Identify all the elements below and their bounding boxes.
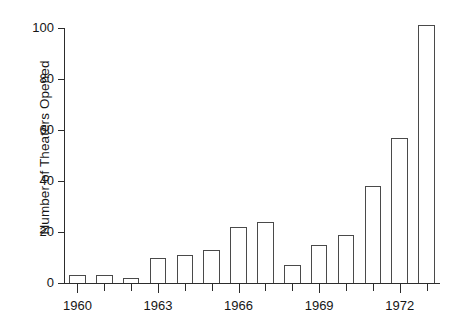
x-axis-tick-label: 1960 [63, 298, 92, 313]
bar [230, 227, 247, 283]
y-axis-tick-label: 0 [47, 275, 54, 290]
bar [338, 235, 355, 283]
bar [177, 255, 194, 283]
bar [311, 245, 328, 283]
x-axis-tick [158, 284, 159, 293]
x-axis-tick [319, 284, 320, 293]
x-axis-tick [185, 284, 186, 291]
plot-area: 020406080100 19601963196619691972 [64, 28, 440, 283]
y-axis-line [64, 28, 65, 283]
y-axis-tick: 100 [58, 28, 64, 29]
bar [203, 250, 220, 283]
x-axis-tick [346, 284, 347, 291]
x-axis-tick [400, 284, 401, 293]
y-axis-tick-label: 80 [40, 71, 54, 86]
x-axis-tick-label: 1972 [385, 298, 414, 313]
y-axis-tick-label: 100 [32, 20, 54, 35]
x-axis-tick-label: 1969 [305, 298, 334, 313]
bar [69, 275, 86, 283]
y-axis-tick: 20 [58, 232, 64, 233]
x-axis-tick [292, 284, 293, 291]
x-axis-tick [104, 284, 105, 291]
x-axis-tick [265, 284, 266, 291]
x-axis-tick-label: 1963 [144, 298, 173, 313]
bar [284, 265, 301, 283]
x-axis-tick-label: 1966 [224, 298, 253, 313]
x-axis-tick [239, 284, 240, 293]
x-axis-tick [427, 284, 428, 291]
y-axis-tick-label: 60 [40, 122, 54, 137]
bar [418, 25, 435, 283]
bar-chart-figure: Number of Theaters Opened 020406080100 1… [0, 0, 449, 335]
bar [257, 222, 274, 283]
y-axis-tick: 0 [58, 283, 64, 284]
bar [123, 278, 140, 283]
bar [391, 138, 408, 283]
bar [96, 275, 113, 283]
y-axis-tick-label: 20 [40, 224, 54, 239]
x-axis-tick [373, 284, 374, 291]
y-axis-tick: 80 [58, 79, 64, 80]
x-axis-tick [212, 284, 213, 291]
x-axis-tick [131, 284, 132, 291]
y-axis-tick: 40 [58, 181, 64, 182]
y-axis-tick: 60 [58, 130, 64, 131]
y-axis-tick-label: 40 [40, 173, 54, 188]
x-axis-tick [77, 284, 78, 293]
bar [365, 186, 382, 283]
x-axis-line [64, 283, 440, 284]
bar [150, 258, 167, 284]
